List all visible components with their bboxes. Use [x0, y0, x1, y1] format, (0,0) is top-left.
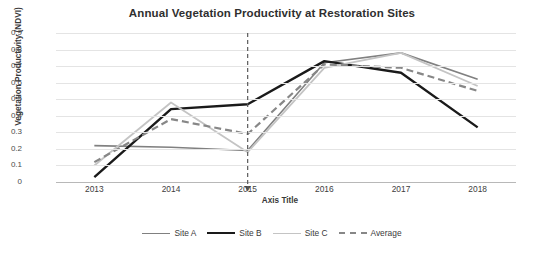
chart-legend: Site ASite BSite CAverage — [0, 228, 544, 238]
x-axis-title: Axis Title — [56, 196, 504, 205]
y-axis-tick-label: 0.7 — [0, 61, 22, 70]
y-axis-tick-label: 0.4 — [0, 111, 22, 120]
y-axis-tick-label: 0.6 — [0, 78, 22, 87]
legend-item-site-b[interactable]: Site B — [207, 228, 261, 238]
chart-title: Annual Vegetation Productivity at Restor… — [0, 7, 544, 19]
y-axis-tick-label: 0.8 — [0, 45, 22, 54]
x-axis-tick-label: 2015 — [218, 184, 278, 194]
legend-swatch-site-c — [273, 233, 301, 234]
chart-container: Annual Vegetation Productivity at Restor… — [0, 0, 544, 253]
legend-swatch-site-a — [142, 233, 170, 234]
y-axis-tick-label: 0 — [0, 177, 22, 186]
y-axis-title: Vegetation Productivity (NDVI) — [14, 0, 23, 142]
annotation-layer — [56, 33, 516, 193]
y-axis-tick-label: 0.1 — [0, 160, 22, 169]
y-axis-tick-label: 0.5 — [0, 94, 22, 103]
legend-swatch-site-b — [207, 232, 235, 234]
y-axis-tick-label: 0.9 — [0, 28, 22, 37]
legend-label-site-c: Site C — [305, 228, 328, 238]
y-axis-tick-label: 0.3 — [0, 127, 22, 136]
x-axis-tick-label: 2017 — [371, 184, 431, 194]
y-axis-tick-label: 0.2 — [0, 144, 22, 153]
legend-label-site-b: Site B — [239, 228, 261, 238]
x-axis-tick-label: 2018 — [448, 184, 508, 194]
legend-label-average: Average — [371, 228, 402, 238]
legend-swatch-average — [339, 232, 367, 234]
x-axis-tick-label: 2013 — [64, 184, 124, 194]
x-axis-tick-label: 2016 — [294, 184, 354, 194]
plot-area — [56, 33, 516, 182]
legend-item-average[interactable]: Average — [339, 228, 402, 238]
legend-label-site-a: Site A — [174, 228, 196, 238]
x-axis-tick-label: 2014 — [141, 184, 201, 194]
legend-item-site-c[interactable]: Site C — [273, 228, 328, 238]
legend-item-site-a[interactable]: Site A — [142, 228, 196, 238]
